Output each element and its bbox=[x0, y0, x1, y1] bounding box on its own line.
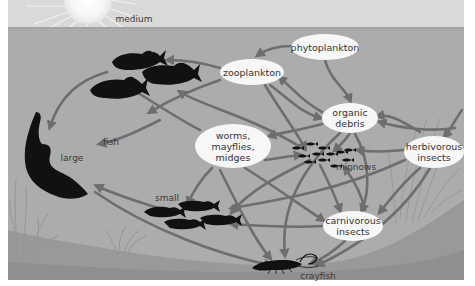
node-phytoplankton: phytoplankton bbox=[291, 34, 359, 60]
label-crayfish: crayfish bbox=[300, 271, 336, 281]
label-large: large bbox=[61, 153, 84, 163]
surface-line bbox=[8, 27, 464, 29]
node-worms: worms, mayflies, midges bbox=[195, 124, 271, 168]
food-web-diagram: mediumfishlargesmallminnowscrayfish phyt… bbox=[0, 0, 475, 286]
arrow-herbivorous-insects-to-minnows bbox=[358, 150, 404, 152]
node-zooplankton: zooplankton bbox=[220, 59, 284, 85]
node-organic-debris: organic debris bbox=[322, 103, 378, 133]
label-minnows: minnows bbox=[336, 162, 376, 172]
label-small: small bbox=[155, 193, 179, 203]
node-carnivorous-insects: carnivorous insects bbox=[323, 211, 383, 241]
label-medium: medium bbox=[116, 14, 153, 24]
label-fish: fish bbox=[103, 137, 119, 147]
node-herbivorous-insects: herbivorous insects bbox=[404, 136, 464, 168]
